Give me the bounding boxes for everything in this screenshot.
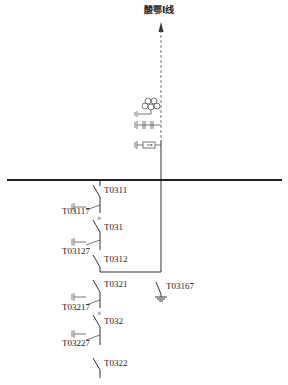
label-t03127: T03127 xyxy=(62,246,90,256)
label-t031: T031 xyxy=(104,222,123,232)
label-t03167: T03167 xyxy=(166,281,194,291)
single-line-diagram: 酸鄂Ⅰ线 xyxy=(0,0,288,385)
line-name-label: 酸鄂Ⅰ线 xyxy=(144,4,174,15)
surge-arrester-icon xyxy=(135,141,161,149)
bay-t032: T0321 T03217 × T032 T03227 T0322 xyxy=(62,279,128,378)
breaker-t032-icon: × xyxy=(97,309,102,318)
disconnector-t0321 xyxy=(93,280,100,292)
label-t0322: T0322 xyxy=(104,358,128,368)
label-t03217: T03217 xyxy=(62,302,90,312)
label-t03227: T03227 xyxy=(62,338,90,348)
label-t032: T032 xyxy=(104,316,123,326)
label-t0321: T0321 xyxy=(104,279,128,289)
label-t0311: T0311 xyxy=(104,185,127,195)
cvt-icon xyxy=(135,98,160,117)
earth-switch-t03167: T03167 xyxy=(155,281,194,301)
label-t0312: T0312 xyxy=(104,254,128,264)
disconnector-t0312 xyxy=(93,255,100,267)
capacitor-icon xyxy=(135,121,161,129)
disconnector-t0311 xyxy=(93,185,100,197)
disconnector-t0322 xyxy=(93,358,100,370)
label-t03117: T03117 xyxy=(62,206,90,216)
breaker-t031-icon: × xyxy=(97,214,102,223)
outgoing-line-arrow xyxy=(159,22,164,140)
bay-t031: T0311 T03117 × T031 T03127 T0312 xyxy=(62,180,128,272)
